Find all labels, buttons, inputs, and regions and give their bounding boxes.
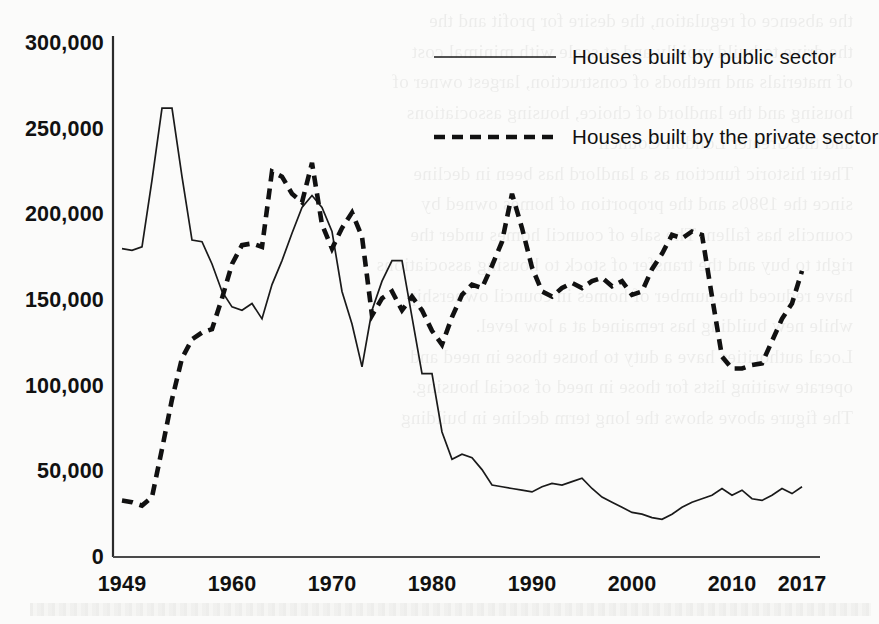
y-tick-label-250000: 250,000 [14, 117, 104, 142]
y-tick-label-300000: 300,000 [14, 31, 104, 56]
x-tick-label-1970: 1970 [308, 572, 357, 597]
y-tick-label-200000: 200,000 [14, 202, 104, 227]
x-tick-label-1990: 1990 [508, 572, 557, 597]
series-line-public-sector [122, 108, 802, 519]
x-tick-label-1980: 1980 [408, 572, 457, 597]
legend-label-public-sector: Houses built by public sector [572, 45, 836, 69]
house-building-line-chart: 300,000 250,000 200,000 150,000 100,000 … [0, 0, 879, 624]
y-tick-label-150000: 150,000 [14, 288, 104, 313]
y-tick-label-50000: 50,000 [14, 459, 104, 484]
scan-edge-artifact [30, 603, 871, 616]
legend-label-private-sector: Houses built by the private sector [572, 125, 879, 149]
chart-svg [0, 0, 879, 624]
x-tick-label-2010: 2010 [708, 572, 757, 597]
y-tick-label-0: 0 [14, 545, 104, 570]
x-tick-label-1949: 1949 [98, 572, 147, 597]
x-tick-label-2000: 2000 [608, 572, 657, 597]
x-tick-label-2017: 2017 [778, 572, 827, 597]
x-tick-label-1960: 1960 [208, 572, 257, 597]
y-tick-label-100000: 100,000 [14, 374, 104, 399]
